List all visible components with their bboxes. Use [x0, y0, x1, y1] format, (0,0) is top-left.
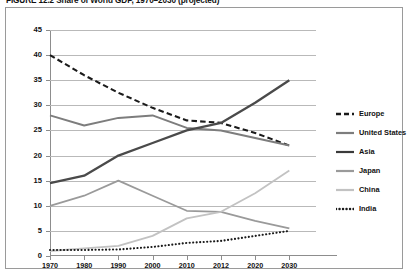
legend-swatch-icon	[336, 128, 354, 138]
legend-item-europe[interactable]: Europe	[336, 104, 408, 123]
y-axis-label: 15	[16, 177, 42, 185]
series-line-united-states	[50, 115, 289, 145]
legend-swatch-icon	[336, 166, 354, 176]
legend-item-india[interactable]: India	[336, 199, 408, 218]
legend-swatch-icon	[336, 185, 354, 195]
x-tick	[50, 256, 51, 260]
y-axis-label: 40	[16, 51, 42, 59]
y-axis-label: 10	[16, 202, 42, 210]
series-line-europe	[50, 55, 289, 145]
figure-frame: 051015202530354045 197019801990200020102…	[5, 7, 403, 269]
legend-item-china[interactable]: China	[336, 180, 408, 199]
x-axis-label: 2030	[269, 262, 309, 270]
series-line-india	[50, 231, 289, 250]
series-lines	[50, 30, 316, 256]
figure-title: FIGURE 12.2 Share of World GDP, 1970–203…	[6, 0, 219, 6]
x-tick	[289, 256, 290, 260]
figure-root: FIGURE 12.2 Share of World GDP, 1970–203…	[0, 0, 409, 274]
x-tick	[84, 256, 85, 260]
series-line-china	[50, 171, 289, 251]
legend-label: Asia	[359, 148, 375, 156]
x-tick	[118, 256, 119, 260]
legend-label: China	[359, 186, 380, 194]
x-tick	[255, 256, 256, 260]
series-line-japan	[50, 181, 289, 229]
y-axis-label: 0	[16, 252, 42, 260]
x-tick	[221, 256, 222, 260]
legend-swatch-icon	[336, 147, 354, 157]
y-axis-label: 5	[16, 227, 42, 235]
legend-item-united-states[interactable]: United States	[336, 123, 408, 142]
y-axis-label: 45	[16, 26, 42, 34]
y-axis-label: 35	[16, 76, 42, 84]
legend-swatch-icon	[336, 109, 354, 119]
y-axis-label: 20	[16, 152, 42, 160]
legend-item-japan[interactable]: Japan	[336, 161, 408, 180]
legend-item-asia[interactable]: Asia	[336, 142, 408, 161]
legend-label: Japan	[359, 167, 380, 175]
y-axis-label: 30	[16, 101, 42, 109]
legend-label: India	[359, 205, 376, 213]
plot-area	[50, 30, 316, 256]
legend-label: United States	[359, 129, 406, 137]
chart-legend: EuropeUnited StatesAsiaJapanChinaIndia	[336, 104, 408, 218]
y-axis-label: 25	[16, 126, 42, 134]
legend-swatch-icon	[336, 204, 354, 214]
legend-label: Europe	[359, 110, 384, 118]
x-tick	[153, 256, 154, 260]
x-tick	[187, 256, 188, 260]
